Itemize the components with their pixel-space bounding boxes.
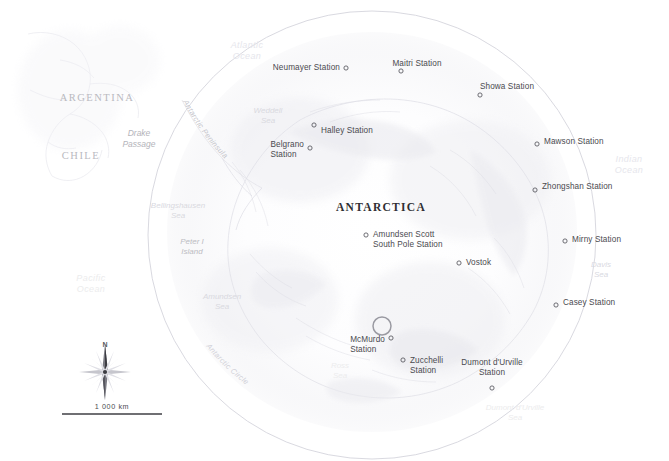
antarctica-map[interactable]: Antarctic Peninsula Antarctic Circle (0, 0, 669, 461)
map-canvas[interactable]: Antarctic Peninsula Antarctic Circle (0, 0, 669, 461)
scale-bar-label: 1 000 km (95, 402, 129, 411)
compass-north-label: N (102, 341, 107, 348)
compass-rose (79, 344, 131, 400)
south-america-wash (18, 26, 160, 150)
